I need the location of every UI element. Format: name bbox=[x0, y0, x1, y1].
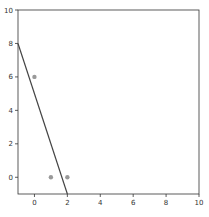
y-tick-label: 6 bbox=[9, 73, 14, 81]
fit-line bbox=[18, 43, 67, 194]
plot-frame bbox=[18, 10, 199, 194]
y-tick-label: 4 bbox=[9, 107, 14, 115]
x-tick-label: 2 bbox=[65, 199, 69, 207]
x-tick-label: 4 bbox=[98, 199, 103, 207]
y-tick-label: 0 bbox=[9, 174, 13, 182]
x-tick-label: 10 bbox=[195, 199, 204, 207]
plot-axes bbox=[18, 10, 199, 194]
scatter-chart: 0246810 0246810 bbox=[0, 0, 209, 217]
y-tick-label: 10 bbox=[4, 7, 13, 15]
x-tick-label: 6 bbox=[131, 199, 136, 207]
y-tick-label: 2 bbox=[9, 140, 13, 148]
data-series bbox=[18, 43, 70, 194]
x-tick-label: 0 bbox=[32, 199, 36, 207]
x-tick-label: 8 bbox=[164, 199, 168, 207]
scatter-point bbox=[65, 175, 69, 179]
scatter-point bbox=[49, 175, 53, 179]
y-axis-ticks: 0246810 bbox=[4, 7, 18, 182]
x-axis-ticks: 0246810 bbox=[32, 194, 203, 207]
scatter-point bbox=[32, 75, 36, 79]
y-tick-label: 8 bbox=[9, 40, 13, 48]
